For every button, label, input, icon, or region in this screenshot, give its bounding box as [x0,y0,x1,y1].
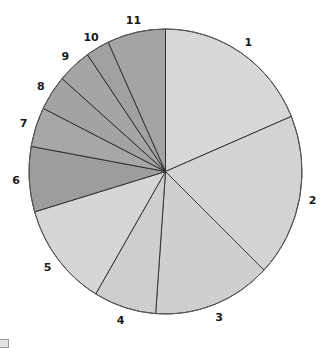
slice-label-11: 11 [126,14,141,27]
slice-label-5: 5 [44,261,52,274]
slice-label-9: 9 [61,50,69,63]
slice-label-7: 7 [20,117,28,130]
legend-swatch [0,339,9,348]
slice-texture [29,29,302,314]
slice-label-10: 10 [83,31,99,44]
slice-label-8: 8 [37,80,45,93]
slice-label-3: 3 [215,311,223,324]
slice-label-2: 2 [309,194,317,207]
slice-label-1: 1 [244,36,252,49]
slice-label-4: 4 [117,314,125,327]
slice-label-6: 6 [12,174,20,187]
